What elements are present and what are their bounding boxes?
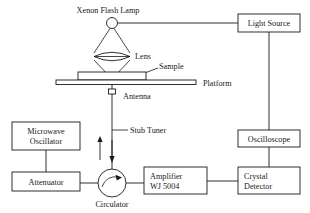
oscilloscope-label: Oscilloscope xyxy=(248,135,291,144)
lens-label: Lens xyxy=(135,52,151,61)
amplifier-label-line1: Amplifier xyxy=(150,172,183,181)
crystal-detector-label-line2: Detector xyxy=(244,182,272,191)
crystal-detector-label-line1: Crystal xyxy=(244,172,268,181)
schematic-diagram: Light Source Xenon Flash Lamp Lens xyxy=(0,0,310,213)
block-amplifier[interactable]: Amplifier WJ 5004 xyxy=(144,167,207,194)
xenon-flash-lamp-label: Xenon Flash Lamp xyxy=(77,6,140,15)
circulator[interactable] xyxy=(98,169,126,197)
microwave-oscillator-label-line2: Oscillator xyxy=(30,137,63,146)
xenon-flash-lamp-bulb-icon[interactable] xyxy=(107,18,118,29)
arrow-down-head xyxy=(109,156,114,163)
circulator-label: Circulator xyxy=(95,200,128,209)
platform-rect xyxy=(56,80,196,85)
light-source-label: Light Source xyxy=(248,19,291,28)
light-ray-left-upper xyxy=(94,29,110,54)
microwave-reflected-arrow-icon xyxy=(109,140,114,163)
stub-tuner-label: Stub Tuner xyxy=(130,126,166,135)
block-light-source[interactable]: Light Source xyxy=(238,14,300,32)
arrow-up-head xyxy=(97,136,102,142)
antenna-coupler-rect xyxy=(109,89,116,94)
sample-block[interactable] xyxy=(78,72,146,80)
block-crystal-detector[interactable]: Crystal Detector xyxy=(238,167,300,194)
diagram-canvas: Light Source Xenon Flash Lamp Lens xyxy=(0,0,310,213)
sample-hatched-rect xyxy=(78,72,146,80)
block-microwave-oscillator[interactable]: Microwave Oscillator xyxy=(12,122,80,150)
microwave-incident-arrow-icon xyxy=(97,136,102,160)
attenuator-label: Attenuator xyxy=(28,178,63,187)
platform-bar[interactable] xyxy=(56,80,196,85)
amplifier-label-line2: WJ 5004 xyxy=(150,182,179,191)
block-oscilloscope[interactable]: Oscilloscope xyxy=(238,130,300,147)
block-attenuator[interactable]: Attenuator xyxy=(12,172,80,191)
antenna-coupler-icon[interactable] xyxy=(109,89,116,94)
biconvex-lens-icon[interactable] xyxy=(94,52,130,61)
platform-label: Platform xyxy=(203,79,232,88)
antenna-label: Antenna xyxy=(123,92,151,101)
light-ray-right-upper xyxy=(114,29,130,54)
circulator-circle xyxy=(98,169,126,197)
sample-leader-line xyxy=(146,68,158,73)
microwave-oscillator-label-line1: Microwave xyxy=(27,127,65,136)
sample-label: Sample xyxy=(159,62,184,71)
